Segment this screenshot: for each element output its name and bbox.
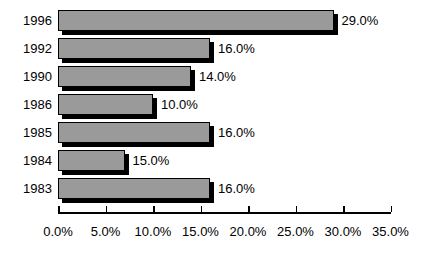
bar	[58, 150, 125, 171]
bar-row: 198415.0%	[0, 150, 440, 178]
bar	[58, 122, 210, 143]
bar-value-label: 14.0%	[199, 66, 236, 87]
bar	[58, 66, 191, 87]
bar	[58, 178, 210, 199]
category-label: 1983	[8, 178, 52, 199]
category-label: 1985	[8, 122, 52, 143]
bar-value-label: 16.0%	[218, 122, 255, 143]
bar-row: 199629.0%	[0, 10, 440, 38]
bar-row: 199216.0%	[0, 38, 440, 66]
category-label: 1986	[8, 94, 52, 115]
category-label: 1990	[8, 66, 52, 87]
category-label: 1984	[8, 150, 52, 171]
bar	[58, 38, 210, 59]
bar-value-label: 16.0%	[218, 178, 255, 199]
bar-row: 199014.0%	[0, 66, 440, 94]
bar-value-label: 15.0%	[133, 150, 170, 171]
plot-area: 199629.0%199216.0%199014.0%198610.0%1985…	[0, 0, 440, 256]
category-label: 1996	[8, 10, 52, 31]
bar-row: 198516.0%	[0, 122, 440, 150]
bar	[58, 94, 153, 115]
bar-row: 198316.0%	[0, 178, 440, 206]
bar-chart: 199629.0%199216.0%199014.0%198610.0%1985…	[0, 0, 440, 256]
category-label: 1992	[8, 38, 52, 59]
bar-row: 198610.0%	[0, 94, 440, 122]
bar	[58, 10, 334, 31]
bar-value-label: 29.0%	[342, 10, 379, 31]
bar-value-label: 16.0%	[218, 38, 255, 59]
bar-value-label: 10.0%	[161, 94, 198, 115]
